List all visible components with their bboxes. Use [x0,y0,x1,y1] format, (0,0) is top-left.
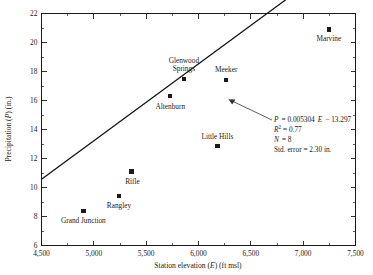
axis-titles: Station elevation (E) (ft msl) Precipita… [4,96,242,270]
y-axis-ticks [42,14,356,246]
data-point-marker [215,144,219,148]
data-point-label: GlenwoodSprings [169,56,200,73]
data-point-label: Grand Junction [61,216,106,225]
y-axis-tick-labels: 6810121416182022 [30,9,38,250]
y-axis-title: Precipitation (P) (in.) [4,96,13,162]
leader-line [231,101,272,121]
data-point-label: Marvine [316,34,341,43]
y-tick-label: 22 [30,9,38,18]
y-tick-label: 16 [30,96,38,105]
data-point-marker [117,194,121,198]
data-point-label: Rifle [125,177,140,186]
scatter-plot: 4,5005,0005,5006,0006,5007,0007,500 6810… [0,0,373,275]
x-tick-label: 6,000 [190,249,207,258]
y-tick-label: 6 [34,241,38,250]
x-axis-tick-labels: 4,5005,0005,5006,0006,5007,0007,500 [33,249,364,258]
y-tick-label: 18 [30,67,38,76]
x-tick-label: 5,000 [86,249,103,258]
data-point-marker [182,77,186,81]
x-tick-label: 7,000 [295,249,312,258]
data-point-marker [327,27,331,31]
y-tick-label: 14 [30,125,38,134]
plot-axes [42,14,356,246]
x-tick-label: 5,500 [138,249,155,258]
data-point-marker [81,209,85,213]
y-tick-label: 12 [30,154,38,163]
data-point-label: Rangley [107,201,132,210]
x-tick-label: 6,500 [243,249,260,258]
annotation-leader-arrow [229,99,273,120]
regression-equation: P= 0.005304E− 13.297 [273,115,352,124]
data-point-marker [168,94,172,98]
data-point-label: Meeker [215,65,238,74]
sample-size-value: N= 8 [273,135,292,144]
data-point-marker [224,78,228,82]
x-tick-label: 7,500 [347,249,364,258]
y-tick-label: 10 [30,183,38,192]
x-axis-title: Station elevation (E) (ft msl) [154,261,242,270]
r-squared-value: R2= 0.77 [273,124,302,134]
plot-frame [42,14,356,246]
x-axis-ticks [42,14,356,246]
y-tick-label: 8 [34,212,38,221]
figure-container: 4,5005,0005,5006,0006,5007,0007,500 6810… [0,0,373,275]
data-point-label: Altenburn [155,102,185,111]
data-point-label: Little Hills [201,132,233,141]
standard-error-value: Std. error = 2.30 in. [274,145,332,154]
y-tick-label: 20 [30,38,38,47]
data-point-marker [129,169,133,173]
statistics-annotation: P= 0.005304E− 13.297 R2= 0.77 N= 8 Std. … [273,115,352,154]
